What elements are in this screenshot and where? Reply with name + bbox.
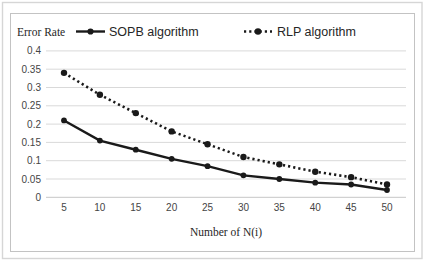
y-tick-label: 0.2 [27, 119, 41, 130]
x-tick-label: 40 [310, 202, 322, 213]
x-axis-title: Number of N(i) [190, 226, 262, 239]
rlp-data-point [133, 110, 139, 116]
y-tick-label: 0.3 [27, 82, 41, 93]
sopb-data-point [61, 118, 67, 124]
x-tick-label: 30 [238, 202, 250, 213]
rlp-data-point [168, 128, 174, 134]
sopb-data-point [312, 180, 318, 186]
x-tick-label: 15 [130, 202, 142, 213]
y-tick-label: 0.25 [22, 100, 42, 111]
sopb-data-point [169, 156, 175, 162]
rlp-data-point [348, 174, 354, 180]
rlp-data-point [97, 92, 103, 98]
rlp-data-point [384, 181, 390, 187]
rlp-data-point [61, 70, 67, 76]
chart-frame [11, 14, 415, 252]
legend-marker-icon [87, 28, 93, 34]
y-tick-label: 0.1 [27, 155, 41, 166]
x-tick-label: 45 [346, 202, 358, 213]
sopb-data-point [205, 163, 211, 169]
x-tick-label: 10 [94, 202, 106, 213]
legend-label-sopb: SOPB algorithm [109, 25, 199, 39]
x-tick-label: 25 [202, 202, 214, 213]
x-tick-label: 50 [381, 202, 393, 213]
sopb-data-point [241, 172, 247, 178]
sopb-data-point [384, 187, 390, 193]
rlp-data-point [204, 141, 210, 147]
legend-label-rlp: RLP algorithm [277, 25, 356, 39]
sopb-data-point [276, 176, 282, 182]
rlp-data-point [276, 161, 282, 167]
legend-marker-icon [255, 28, 262, 35]
rlp-data-point [312, 168, 318, 174]
sopb-data-point [348, 182, 354, 188]
error-rate-chart: Error Rate SOPB algorithm RLP algorithm … [0, 0, 425, 267]
sopb-data-point [97, 138, 103, 144]
y-tick-label: 0.15 [22, 137, 42, 148]
y-tick-label: 0.4 [27, 45, 41, 56]
sopb-data-point [133, 147, 139, 153]
x-tick-label: 20 [166, 202, 178, 213]
rlp-data-point [240, 154, 246, 160]
y-tick-label: 0 [35, 192, 41, 203]
x-tick-label: 5 [61, 202, 67, 213]
y-tick-label: 0.35 [22, 64, 42, 75]
y-axis-title: Error Rate [17, 26, 65, 38]
x-tick-label: 35 [274, 202, 286, 213]
y-tick-label: 0.05 [22, 174, 42, 185]
